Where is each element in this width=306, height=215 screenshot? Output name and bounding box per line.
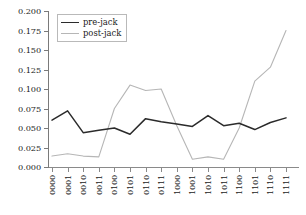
- y-tick-label: 0.200: [18, 7, 41, 15]
- x-tick: [130, 167, 131, 172]
- x-tick: [83, 167, 84, 172]
- x-tick-label: 0110: [142, 175, 150, 195]
- x-tick: [286, 167, 287, 172]
- x-tick-label: 1011: [220, 175, 228, 195]
- x-tick: [52, 167, 53, 172]
- x-tick-label: 1100: [235, 175, 243, 195]
- x-tick: [224, 167, 225, 172]
- legend: pre-jack post-jack: [57, 14, 127, 42]
- legend-label-pre-jack: pre-jack: [83, 18, 118, 26]
- x-tick: [255, 167, 256, 172]
- chart-figure: 0.2000.1750.1500.1250.1000.0750.0500.025…: [0, 0, 306, 215]
- x-tick: [68, 167, 69, 172]
- legend-swatch-post-jack: [61, 33, 79, 34]
- x-tick: [114, 167, 115, 172]
- x-tick-label: 0000: [48, 175, 56, 195]
- legend-item-pre-jack[interactable]: pre-jack: [61, 17, 121, 28]
- y-tick-label: 0.175: [18, 27, 41, 35]
- x-tick: [208, 167, 209, 172]
- legend-swatch-pre-jack: [61, 22, 79, 23]
- x-tick: [270, 167, 271, 172]
- legend-item-post-jack[interactable]: post-jack: [61, 28, 121, 39]
- x-tick-label: 1010: [204, 175, 212, 195]
- x-tick-label: 0011: [95, 175, 103, 195]
- x-tick-label: 0010: [79, 175, 87, 195]
- x-tick-label: 0111: [157, 175, 165, 195]
- y-tick-label: 0.025: [18, 144, 41, 152]
- y-tick-label: 0.075: [18, 105, 41, 113]
- x-tick: [239, 167, 240, 172]
- x-tick-label: 1001: [188, 175, 196, 195]
- x-tick-label: 0101: [126, 175, 134, 195]
- x-tick-label: 0100: [110, 175, 118, 195]
- x-tick-label: 1111: [282, 175, 290, 195]
- y-tick-label: 0.100: [18, 85, 41, 93]
- x-tick-label: 1000: [173, 175, 181, 195]
- series-line-pre-jack: [52, 111, 286, 134]
- x-tick: [177, 167, 178, 172]
- x-axis-line: [48, 167, 299, 168]
- x-tick: [146, 167, 147, 172]
- x-tick: [161, 167, 162, 172]
- y-tick-label: 0.000: [18, 163, 41, 171]
- series-line-post-jack: [52, 31, 286, 160]
- x-tick-label: 0001: [64, 175, 72, 195]
- y-tick-label: 0.050: [18, 124, 41, 132]
- legend-label-post-jack: post-jack: [83, 29, 121, 37]
- y-tick-label: 0.125: [18, 66, 41, 74]
- x-tick: [99, 167, 100, 172]
- y-tick: [44, 167, 49, 168]
- x-tick: [192, 167, 193, 172]
- x-tick-label: 1110: [266, 175, 274, 195]
- x-tick-label: 1101: [251, 175, 259, 195]
- y-tick-label: 0.150: [18, 46, 41, 54]
